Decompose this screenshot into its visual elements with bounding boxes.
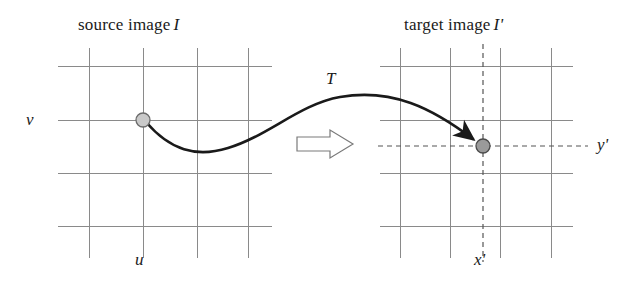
target-title-symbol: I' bbox=[491, 15, 504, 34]
source-grid bbox=[58, 48, 272, 258]
target-y-prime-axis-label: y' bbox=[597, 136, 608, 153]
source-point-marker bbox=[136, 113, 150, 127]
source-title-symbol: I bbox=[171, 15, 180, 34]
target-point-marker bbox=[476, 139, 490, 153]
source-v-axis-label: v bbox=[26, 111, 34, 128]
target-x-prime-axis-label: x' bbox=[474, 251, 485, 268]
source-u-axis-label: u bbox=[135, 251, 144, 268]
source-title-text: source image bbox=[78, 15, 171, 34]
target-grid bbox=[380, 48, 573, 258]
transformation-label: T bbox=[326, 70, 335, 87]
target-panel-title: target imageI' bbox=[404, 16, 503, 33]
transformation-diagram: source imageI target imageI' v u x' y' T bbox=[0, 0, 640, 290]
target-title-text: target image bbox=[404, 15, 491, 34]
source-panel-title: source imageI bbox=[78, 16, 179, 33]
block-arrow-icon bbox=[297, 130, 353, 158]
diagram-canvas bbox=[0, 0, 640, 290]
